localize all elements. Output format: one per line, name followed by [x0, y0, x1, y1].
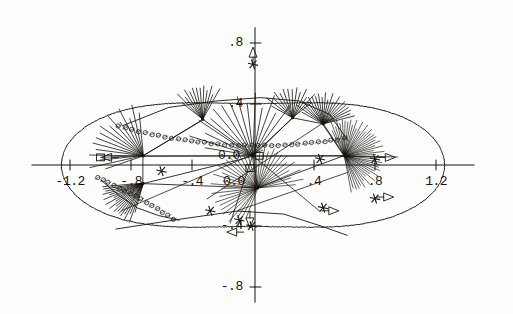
ray-fan-n5: [296, 92, 355, 124]
x-tick-label: .8: [368, 174, 383, 189]
fan-ray: [203, 94, 214, 119]
arrow-triangle-marker: [384, 193, 394, 201]
x-origin-label: 0.0: [218, 148, 240, 163]
node-connector: [257, 155, 344, 187]
ray-fan-n1: [89, 105, 144, 169]
node-connector: [253, 118, 293, 155]
x-tick-label: -1.2: [56, 174, 85, 189]
fan-ray: [292, 89, 293, 117]
chain-tick: [215, 143, 221, 145]
y-tick-label: -.8: [221, 279, 243, 294]
y-origin-label: 0.0: [223, 174, 245, 189]
y-tick-label: .8: [228, 35, 243, 50]
chain-tick: [322, 140, 328, 142]
fan-node-n4: [291, 116, 294, 119]
star-marker: [156, 166, 166, 176]
chain-tick: [165, 215, 171, 217]
x-tick-label: .4: [307, 174, 322, 189]
x-tick-label: -.4: [181, 174, 203, 189]
fan-node-n8: [256, 186, 259, 189]
plot-svg: [0, 0, 513, 314]
upper-chain-markers: [116, 124, 348, 148]
arrow-triangle-marker: [385, 153, 395, 161]
arrow-triangle-marker: [249, 47, 257, 57]
fan-node-n2: [201, 118, 204, 121]
arrow-triangle-marker: [329, 207, 339, 215]
chain-tick: [196, 141, 202, 143]
fan-ray: [274, 92, 293, 118]
chain-tick: [202, 142, 208, 144]
fan-ray: [344, 132, 366, 156]
x-tick-label: -.8: [120, 174, 142, 189]
x-tick-label: 1.2: [425, 174, 447, 189]
star-marker: [370, 194, 380, 204]
figure-canvas: -1.2-.8-.4.4.81.2.8.4-.4-.80.00.0: [0, 0, 513, 314]
y-tick-label: .4: [228, 96, 243, 111]
y-tick-label: -.4: [221, 218, 243, 233]
